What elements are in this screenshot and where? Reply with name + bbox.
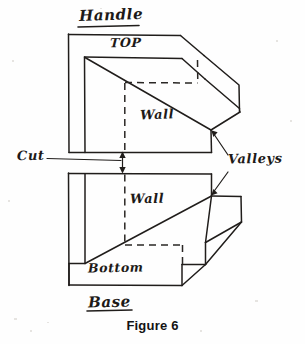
cut-arrowhead-down bbox=[119, 167, 125, 174]
label-top: TOP bbox=[110, 37, 142, 50]
handle-fold-horizontal bbox=[85, 57, 183, 59]
label-valleys: Valleys bbox=[228, 152, 283, 166]
valleys-arrowhead-upper bbox=[211, 130, 217, 137]
label-wall-upper: Wall bbox=[140, 107, 175, 121]
handle-slab-thickness-front bbox=[211, 112, 240, 130]
figure-drawing-canvas bbox=[0, 0, 305, 344]
label-base: Base bbox=[88, 294, 131, 310]
figure-caption: Figure 6 bbox=[0, 318, 305, 333]
handle-title-underline bbox=[78, 26, 139, 28]
handle-hidden-horizontal bbox=[125, 83, 198, 84]
base-wall-top-edge bbox=[69, 174, 212, 175]
label-cut: Cut bbox=[17, 149, 45, 162]
cut-callout-drawing bbox=[47, 152, 126, 174]
base-slab-right-upper-edge bbox=[212, 196, 242, 197]
handle-fold-vertical-left bbox=[85, 57, 86, 153]
figure-diagram: Handle TOP Wall Cut Valleys Wall Bottom … bbox=[0, 0, 305, 344]
valleys-leader-lower bbox=[214, 172, 229, 192]
handle-top-surface-right-edge bbox=[181, 36, 205, 56]
base-slab-inner-edge bbox=[206, 222, 242, 243]
handle-fold-to-back-corner bbox=[182, 59, 205, 80]
label-wall-lower: Wall bbox=[130, 192, 164, 206]
valleys-leader-upper bbox=[214, 134, 229, 156]
label-handle: Handle bbox=[79, 7, 144, 24]
base-slab-back-diagonal bbox=[206, 196, 212, 243]
handle-left-outer-edge bbox=[69, 34, 70, 153]
base-wall-bottom-diagonal bbox=[85, 196, 212, 264]
base-bottom-front-edge bbox=[69, 285, 182, 286]
label-bottom: Bottom bbox=[88, 262, 144, 275]
cut-leader-line bbox=[47, 159, 121, 161]
valleys-callout-drawing bbox=[211, 130, 228, 195]
handle-valley-step-vertical bbox=[211, 130, 212, 153]
base-slab-front-thickness bbox=[182, 265, 206, 286]
handle-slab-right-inner-edge bbox=[205, 79, 240, 109]
base-slab-lower-diagonal bbox=[206, 222, 242, 265]
base-slab-right-diagonal bbox=[241, 197, 242, 223]
